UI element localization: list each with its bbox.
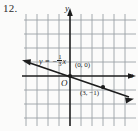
grid-horizontal-lines — [24, 20, 136, 118]
equation-variable: x — [62, 57, 66, 66]
point-label-3-neg1: (3, −1) — [80, 90, 99, 97]
point-marker-origin — [68, 74, 72, 78]
grid-vertical-lines — [26, 14, 125, 126]
line-left-arrow-icon — [22, 59, 31, 65]
point-label-origin: (0, 0) — [75, 62, 90, 69]
y-axis-label: y — [65, 4, 69, 13]
origin-label: O — [61, 79, 68, 88]
coordinate-plane-figure — [0, 0, 138, 131]
x-axis — [22, 73, 136, 79]
x-axis-label: x — [129, 71, 133, 80]
figure-page: 12. — [0, 0, 138, 131]
line-right-arrow-icon — [125, 98, 134, 104]
y-axis — [67, 8, 73, 126]
equation-label: y = −13x — [39, 54, 66, 68]
equation-equals: = — [45, 57, 50, 66]
equation-lhs: y — [39, 57, 43, 66]
point-marker-3-neg1 — [101, 85, 105, 89]
